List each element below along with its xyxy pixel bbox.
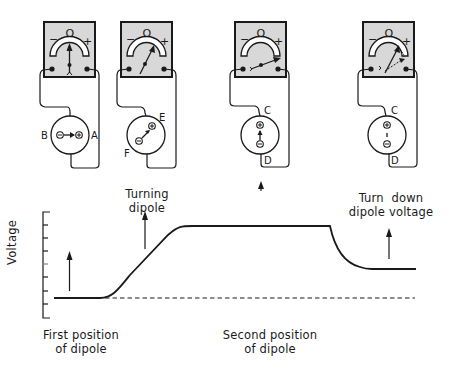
- meter-plus-label: +: [402, 35, 411, 48]
- y-axis-label: Voltage: [5, 220, 19, 265]
- pole-label-a: A: [91, 130, 98, 141]
- meter-minus-label: −: [240, 33, 249, 46]
- pole-label-b: B: [41, 130, 48, 141]
- pole-label-c: C: [391, 105, 398, 116]
- dipole-sphere: [51, 116, 89, 154]
- annotation-turning-dipole: Turning dipole: [117, 187, 177, 215]
- arrow-up-icon: [67, 251, 73, 291]
- pole-label-d: D: [391, 155, 399, 166]
- arrow-up-icon: [386, 228, 392, 259]
- annotation-line: Second position: [220, 328, 320, 342]
- annotation-turn-down-voltage: Turn down dipole voltage: [342, 191, 440, 219]
- voltage-curve: [54, 226, 416, 298]
- panel-4: O − + C D: [358, 22, 417, 167]
- pole-label-e: E: [159, 112, 165, 123]
- annotation-line: dipole: [117, 201, 177, 215]
- dipole-sphere: [368, 116, 406, 154]
- meter-plus-label: +: [274, 35, 283, 48]
- y-axis: [43, 212, 50, 318]
- panel-1: O − + B A: [40, 22, 99, 168]
- annotation-line: First position: [36, 328, 126, 342]
- annotation-first-position: First position of dipole: [36, 328, 126, 356]
- meter-minus-label: −: [368, 33, 377, 46]
- meter-zero-label: O: [143, 27, 152, 40]
- meter-minus-label: −: [49, 33, 58, 46]
- pole-label-f: F: [124, 148, 130, 159]
- annotation-second-position: Second position of dipole: [220, 328, 320, 356]
- diagram-canvas: O − + B A: [0, 0, 455, 372]
- meter-plus-label: +: [160, 35, 169, 48]
- panel-3: O − + C D: [230, 22, 289, 167]
- meter-plus-label: +: [83, 35, 92, 48]
- meter-zero-label: O: [385, 27, 394, 40]
- annotation-line: Turn down: [342, 191, 440, 205]
- meter-zero-label: O: [257, 27, 266, 40]
- annotation-line: Turning: [117, 187, 177, 201]
- annotation-line: of dipole: [220, 342, 320, 356]
- meter-zero-label: O: [66, 27, 75, 40]
- panel-2: O − + E F: [117, 22, 176, 168]
- annotation-line: of dipole: [36, 342, 126, 356]
- arrow-up-icon: [142, 211, 148, 249]
- dipole-sphere: [241, 116, 279, 154]
- annotation-line: dipole voltage: [342, 205, 440, 219]
- arrow-up-icon: [258, 181, 264, 191]
- pole-label-d: D: [264, 155, 272, 166]
- pole-label-c: C: [264, 105, 271, 116]
- meter-minus-label: −: [126, 33, 135, 46]
